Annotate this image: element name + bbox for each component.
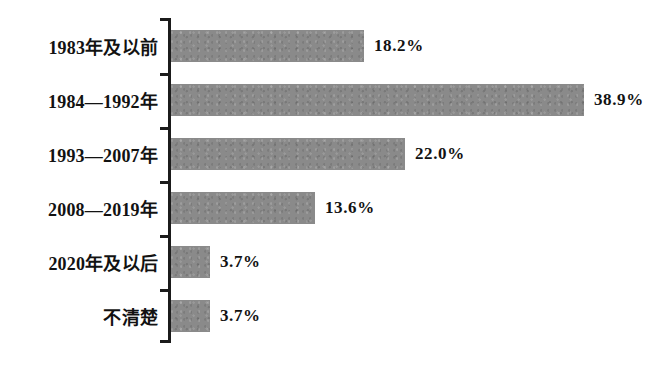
axis-tick <box>160 73 169 76</box>
bar-row: 1993—2007年22.0% <box>0 138 663 170</box>
category-label: 2008—2019年 <box>48 195 158 221</box>
category-label: 1993—2007年 <box>48 141 158 167</box>
bar-row: 1984—1992年38.9% <box>0 84 663 116</box>
category-label: 1984—1992年 <box>48 87 158 113</box>
bar-row: 1983年及以前18.2% <box>0 30 663 62</box>
axis-bottom-cap <box>160 340 171 343</box>
bar <box>171 138 405 170</box>
bar <box>171 246 210 278</box>
bar <box>171 300 210 332</box>
axis-tick <box>160 289 169 292</box>
bar-value-label: 18.2% <box>374 36 424 56</box>
bar <box>171 84 584 116</box>
bar-value-label: 3.7% <box>220 306 261 326</box>
category-label: 1983年及以前 <box>48 33 158 59</box>
plot-area: 1983年及以前18.2%1984—1992年38.9%1993—2007年22… <box>0 0 663 368</box>
bar <box>171 192 315 224</box>
axis-tick <box>160 181 169 184</box>
bar-row: 2020年及以后3.7% <box>0 246 663 278</box>
bar-row: 不清楚3.7% <box>0 300 663 332</box>
bar-value-label: 38.9% <box>594 90 644 110</box>
bar-value-label: 22.0% <box>415 144 465 164</box>
axis-tick <box>160 235 169 238</box>
category-label: 2020年及以后 <box>48 249 158 275</box>
bar-row: 2008—2019年13.6% <box>0 192 663 224</box>
axis-tick <box>160 127 169 130</box>
bar-value-label: 13.6% <box>325 198 375 218</box>
bar <box>171 30 364 62</box>
bar-value-label: 3.7% <box>220 252 261 272</box>
category-label: 不清楚 <box>103 303 158 329</box>
horizontal-bar-chart: 1983年及以前18.2%1984—1992年38.9%1993—2007年22… <box>0 0 663 368</box>
axis-top-cap <box>160 18 171 21</box>
